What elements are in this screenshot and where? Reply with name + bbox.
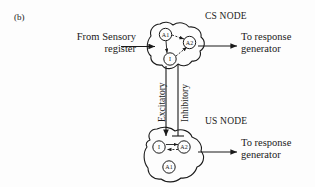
cs-unit-a1-label: A1 [162, 32, 169, 38]
us-node-title: US NODE [205, 116, 247, 127]
us-unit-i-label: I [158, 144, 160, 150]
cs-node-title: CS NODE [205, 11, 247, 22]
cs-a1-to-a2-arrow [172, 35, 184, 39]
excitatory-link-label: Excitatory [157, 82, 167, 122]
panel-label: (b) [14, 12, 25, 22]
cs-unit-a2-label: A2 [186, 40, 193, 46]
us-unit-a1-label: A1 [165, 164, 172, 170]
inhibitory-link-label: Inhibitory [180, 84, 190, 122]
sensory-input-label: From Sensory register [38, 31, 136, 55]
figure-panel: A1 A2 I I A2 A1 (b) CS NODE US NODE From… [0, 0, 315, 187]
us-output-label: To response generator [241, 137, 315, 161]
us-unit-a2-label: A2 [180, 144, 187, 150]
cs-output-label: To response generator [241, 31, 315, 55]
cs-a1-to-i-arrow [166, 41, 167, 53]
cs-i-to-a2-arrow [176, 47, 187, 56]
cs-unit-i-label: I [169, 56, 171, 62]
